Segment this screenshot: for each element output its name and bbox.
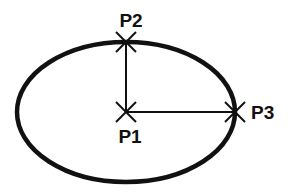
point-p2-label: P2 [119,10,142,31]
point-p1-label: P1 [118,126,142,147]
ellipse-diagram: P2 P1 P3 [0,0,288,195]
point-p3-label: P3 [251,102,274,123]
